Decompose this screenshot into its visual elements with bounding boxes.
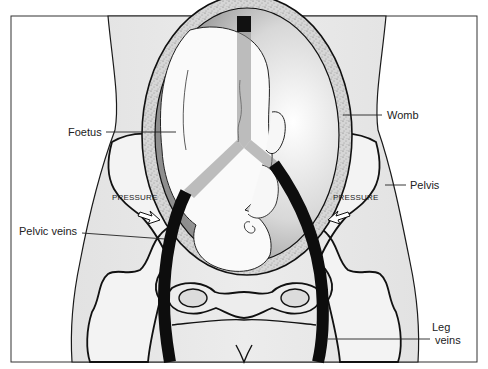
label-pressure-right: PRESSURE (333, 193, 379, 202)
vena-cava-through-womb (237, 32, 251, 148)
anatomical-diagram: Foetus Womb Pelvis Pelvic veins Leg vein… (0, 0, 488, 369)
vena-cava-top (237, 16, 251, 32)
obturator-foramen-right (281, 289, 309, 307)
diagram-canvas: Foetus Womb Pelvis Pelvic veins Leg vein… (0, 0, 488, 369)
label-womb: Womb (387, 109, 419, 121)
label-pelvis: Pelvis (410, 179, 440, 191)
label-pressure-left: PRESSURE (112, 193, 158, 202)
label-leg-veins-line2: veins (435, 334, 461, 346)
label-leg-veins-line1: Leg (432, 321, 450, 333)
label-foetus: Foetus (68, 126, 102, 138)
label-pelvic-veins: Pelvic veins (19, 225, 78, 237)
obturator-foramen-left (179, 289, 207, 307)
